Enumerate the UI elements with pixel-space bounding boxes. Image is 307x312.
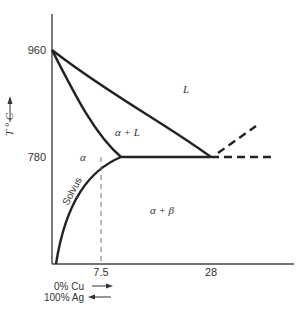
- composition-label-ag: 100% Ag: [44, 292, 84, 303]
- y-axis-arrow-icon: [8, 96, 13, 104]
- left-arrow-icon: [88, 295, 95, 300]
- x-tick-28: 28: [205, 266, 217, 278]
- y-axis-label: T ° C: [3, 112, 15, 136]
- phase-diagram-svg: 960 780 T ° C 7.5 28 0% Cu 100% Ag L α +…: [0, 0, 307, 312]
- liquidus-curve: [52, 50, 211, 157]
- y-tick-780: 780: [28, 151, 46, 163]
- x-tick-7-5: 7.5: [93, 266, 108, 278]
- composition-label-cu: 0% Cu: [54, 281, 84, 292]
- liquidus-dashed: [218, 126, 256, 153]
- region-alpha-liquid: α + L: [115, 126, 140, 138]
- solidus-curve: [52, 50, 121, 157]
- y-tick-960: 960: [28, 44, 46, 56]
- solvus-curve: [56, 157, 121, 264]
- region-liquid: L: [182, 83, 189, 95]
- phase-diagram: 960 780 T ° C 7.5 28 0% Cu 100% Ag L α +…: [0, 0, 307, 312]
- right-arrow-icon: [106, 284, 113, 289]
- region-alpha-beta: α + β: [150, 204, 175, 216]
- region-alpha: α: [80, 151, 86, 163]
- y-axis-label-group: T ° C: [3, 112, 15, 136]
